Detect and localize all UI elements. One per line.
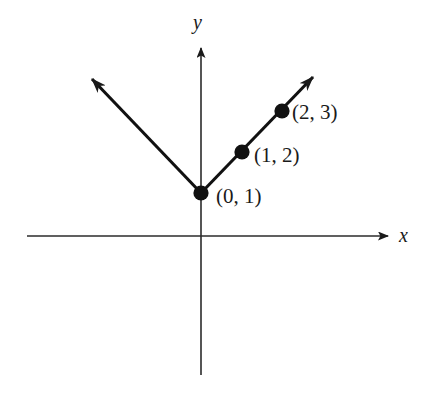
graph-figure: y x (0, 1) (1, 2) (2, 3): [0, 0, 429, 394]
x-axis-label: x: [399, 225, 408, 245]
curve-right-ray: [201, 77, 313, 193]
point-label-2-3: (2, 3): [292, 102, 338, 123]
y-axis-label: y: [193, 12, 202, 32]
data-point-0-1: [193, 185, 208, 200]
coordinate-plane-svg: [0, 0, 429, 394]
curve-left-ray: [92, 79, 201, 193]
data-point-1-2: [234, 144, 249, 159]
data-point-2-3: [274, 103, 289, 118]
point-label-0-1: (0, 1): [216, 186, 262, 207]
point-label-1-2: (1, 2): [254, 145, 300, 166]
